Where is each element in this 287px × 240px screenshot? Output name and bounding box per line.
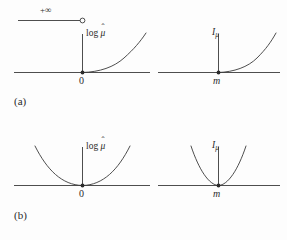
x-tick-label-origin: 0 (79, 76, 84, 86)
mu-subscript: μ (215, 143, 219, 152)
panel-tag-b: (b) (14, 210, 27, 221)
chart-a-right (158, 33, 280, 74)
figure-container: +∞ log ˆμ 0 Iμ m (a) log ˆμ 0 Iμ m (b) (0, 0, 287, 240)
x-tick-label-origin: 0 (79, 189, 84, 199)
mu-hat-accent: ˆ (101, 136, 106, 145)
y-axis-label-I-mu: Iμ (212, 141, 219, 151)
origin-dot-marker (217, 71, 221, 75)
x-tick-label-m: m (213, 189, 220, 199)
y-axis-label-log-mu-hat: log ˆμ (86, 142, 105, 152)
origin-dot-marker (81, 184, 85, 188)
y-axis-label-I-mu: Iμ (212, 28, 219, 38)
origin-dot-marker (217, 184, 221, 188)
mu-hat-accent: ˆ (101, 23, 106, 32)
panel-tag-a: (a) (14, 96, 26, 107)
chart-a-left (14, 18, 150, 74)
y-axis-label-mu-hat-group: ˆμ (101, 29, 106, 39)
infinity-annotation-label: +∞ (40, 6, 52, 15)
chart-b-right (158, 146, 280, 187)
mu-subscript: μ (215, 30, 219, 39)
chart-b-left (14, 146, 150, 187)
y-axis-label-prefix: log (86, 28, 98, 38)
infinity-ray-open-circle-marker (80, 18, 85, 23)
origin-dot-marker (81, 71, 85, 75)
curve-path (219, 33, 277, 73)
figure-vector-layer (0, 0, 287, 240)
x-tick-label-m: m (213, 76, 220, 86)
y-axis-label-log-mu-hat: log ˆμ (86, 29, 105, 39)
y-axis-label-prefix: log (86, 141, 98, 151)
curve-path (83, 33, 147, 73)
y-axis-label-mu-hat-group: ˆμ (101, 142, 106, 152)
